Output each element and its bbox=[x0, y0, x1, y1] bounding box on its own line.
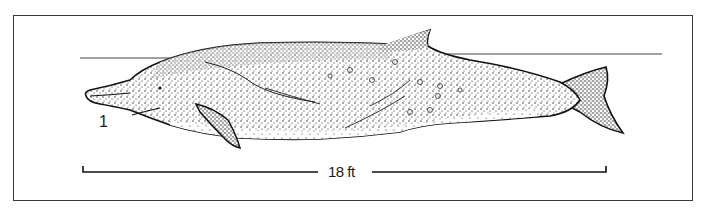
figure-number: 1 bbox=[99, 114, 108, 130]
scale-bar-label: 18 ft bbox=[324, 164, 359, 179]
eye bbox=[158, 86, 161, 89]
